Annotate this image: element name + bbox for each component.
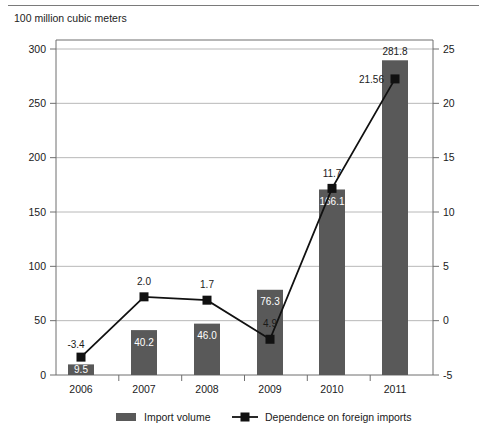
legend: Import volume Dependence on foreign impo… <box>116 411 412 423</box>
line-series-dependence <box>77 74 400 361</box>
x-axis-labels: 2006 2007 2008 2009 2010 2011 <box>69 383 406 395</box>
combo-chart: 0 50 100 150 200 250 300 -5 0 5 10 15 20… <box>0 0 485 429</box>
bar-label-2010: 166.1 <box>319 196 344 207</box>
y-tick-right-2: 5 <box>443 260 449 272</box>
line-label-2008: 1.7 <box>200 279 214 290</box>
y-tick-right-0: -5 <box>443 369 452 381</box>
y-tick-right-5: 20 <box>443 97 455 109</box>
y-axis-left: 0 50 100 150 200 250 300 <box>28 43 56 381</box>
y-tick-left-4: 200 <box>28 151 46 163</box>
line-label-2011: 21.56 <box>359 74 384 85</box>
bar-label-2009: 76.3 <box>260 296 280 307</box>
line-marker-2009 <box>266 335 275 344</box>
bar-2011 <box>382 60 408 375</box>
line-label-2010: 11.7 <box>323 168 342 179</box>
legend-label-dependence: Dependence on foreign imports <box>265 411 412 423</box>
bar-label-2011: 281.8 <box>382 46 407 57</box>
y-tick-left-5: 250 <box>28 97 46 109</box>
x-label-2007: 2007 <box>132 383 156 395</box>
x-label-2009: 2009 <box>258 383 282 395</box>
bar-2010 <box>319 189 345 375</box>
x-axis-ticks <box>119 375 370 381</box>
bar-label-2006: 9.5 <box>74 364 88 375</box>
y-tick-right-6: 25 <box>443 43 455 55</box>
bar-label-2008: 46.0 <box>197 330 217 341</box>
bar-series-import-volume <box>68 60 408 375</box>
y-tick-right-3: 10 <box>443 206 455 218</box>
line-marker-2011 <box>391 74 400 83</box>
legend-label-import-volume: Import volume <box>144 411 211 423</box>
legend-swatch-import-volume <box>116 413 136 421</box>
line-label-2009: 4.9 <box>263 318 277 329</box>
line-label-2006: -3.4 <box>67 339 85 350</box>
x-label-2011: 2011 <box>384 383 407 395</box>
line-marker-2008 <box>203 296 212 305</box>
y-tick-left-1: 50 <box>34 314 46 326</box>
y-tick-left-3: 150 <box>28 206 46 218</box>
x-label-2008: 2008 <box>195 383 219 395</box>
plot-frame <box>56 40 433 375</box>
line-label-2007: 2.0 <box>137 276 151 287</box>
legend-marker-dependence <box>241 413 250 422</box>
line-marker-2006 <box>77 353 86 362</box>
y-tick-left-6: 300 <box>28 43 46 55</box>
x-label-2006: 2006 <box>69 383 93 395</box>
bar-value-labels: 9.5 40.2 46.0 76.3 166.1 281.8 <box>74 46 408 375</box>
gridlines <box>56 49 433 321</box>
bar-label-2007: 40.2 <box>134 337 154 348</box>
y-tick-left-2: 100 <box>28 260 46 272</box>
y-axis-right: -5 0 5 10 15 20 25 <box>433 43 455 381</box>
x-label-2010: 2010 <box>320 383 344 395</box>
y-tick-left-0: 0 <box>40 369 46 381</box>
line-marker-2007 <box>140 292 149 301</box>
y-tick-right-1: 0 <box>443 314 449 326</box>
line-marker-2010 <box>328 184 337 193</box>
y-tick-right-4: 15 <box>443 151 455 163</box>
